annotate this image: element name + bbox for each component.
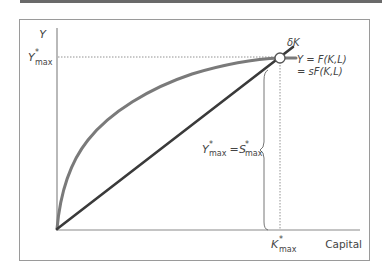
curve-label-line1: Y = F(K,L) bbox=[297, 54, 347, 65]
delta-k-label: δK bbox=[287, 37, 301, 48]
svg-text:*: * bbox=[209, 140, 213, 149]
x-axis-label: Capital bbox=[325, 238, 362, 250]
svg-text:max: max bbox=[35, 58, 53, 67]
svg-text:max: max bbox=[245, 149, 263, 158]
svg-text:*: * bbox=[35, 48, 39, 57]
depreciation-line bbox=[57, 47, 293, 229]
y-axis-label: Y bbox=[39, 28, 47, 41]
svg-text:*: * bbox=[245, 140, 249, 149]
diagram-canvas: Y Y * max δK Y = F(K,L) = sF(K,L) Y * ma… bbox=[0, 0, 385, 271]
svg-text:K: K bbox=[271, 238, 279, 251]
production-curve bbox=[57, 58, 296, 229]
svg-text:max: max bbox=[209, 149, 227, 158]
svg-text:max: max bbox=[279, 245, 297, 254]
brace-label: Y * max = S * max bbox=[202, 140, 263, 158]
steady-state-point bbox=[275, 53, 285, 63]
svg-text:*: * bbox=[279, 235, 283, 244]
y-max-label: Y * max bbox=[28, 48, 53, 67]
k-max-label: K * max bbox=[271, 235, 297, 254]
curve-label-line2: = sF(K,L) bbox=[297, 66, 343, 77]
